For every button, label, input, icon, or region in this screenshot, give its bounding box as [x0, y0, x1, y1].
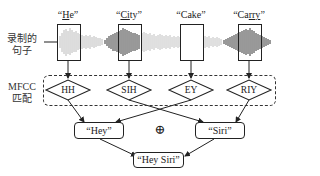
phoneme-riy: RIY: [227, 84, 271, 96]
combine-symbol: ⊕: [153, 122, 167, 138]
word-label-he: “He”: [43, 9, 93, 21]
phoneme-ey: EY: [169, 84, 213, 96]
hey-box: “Hey”: [74, 122, 124, 139]
word-label-city: “City”: [104, 9, 154, 21]
segment-box-carry: [238, 24, 262, 61]
siri-box: “Siri”: [195, 122, 245, 139]
hey-siri-result-box: “Hey Siri”: [133, 152, 184, 168]
segment-box-cake: [180, 24, 204, 61]
word-label-cake: “Cake”: [166, 9, 216, 21]
segment-box-he: [57, 24, 81, 61]
word-label-carry: “Carry”: [224, 9, 274, 21]
phoneme-hh: HH: [46, 84, 90, 96]
segment-box-city: [118, 24, 142, 61]
phoneme-sih: SIH: [107, 84, 151, 96]
